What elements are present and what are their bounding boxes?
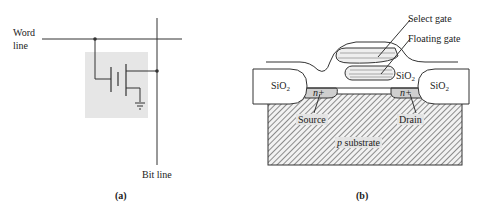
word-line-label-2: line bbox=[13, 40, 28, 51]
select-gate-label: Select gate bbox=[408, 13, 452, 24]
sio2-right-label: SiO2 bbox=[430, 80, 449, 91]
floating-gate-label: Floating gate bbox=[408, 33, 461, 44]
figure-canvas bbox=[0, 0, 478, 205]
n-plus-source-label: n+ bbox=[313, 87, 325, 98]
cell-background bbox=[85, 52, 148, 118]
substrate-label: p substrate bbox=[335, 137, 382, 148]
drain-label: Drain bbox=[397, 114, 424, 125]
caption-b: (b) bbox=[356, 190, 368, 201]
n-plus-drain-label: n+ bbox=[400, 87, 412, 98]
p-substrate bbox=[268, 94, 462, 165]
sio2-mid-label: SiO2 bbox=[396, 70, 415, 81]
source-label: Source bbox=[296, 114, 328, 125]
caption-a: (a) bbox=[115, 190, 127, 201]
floating-gate bbox=[345, 66, 395, 80]
word-line-label: Word bbox=[13, 27, 35, 38]
memory-cell-schematic bbox=[42, 18, 182, 165]
sio2-left-label: SiO2 bbox=[271, 80, 290, 91]
select-gate bbox=[336, 48, 398, 63]
bit-line-label: Bit line bbox=[142, 169, 172, 180]
